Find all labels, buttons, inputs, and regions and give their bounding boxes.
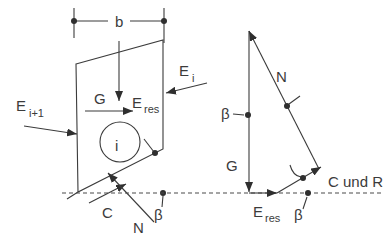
polygon-angle-bottom-label: β: [294, 206, 303, 223]
interslice-left-label-sub: i+1: [29, 107, 44, 119]
polygon-angle-top-label: β: [221, 105, 230, 122]
polygon-angle-bottom-leader: [303, 197, 307, 209]
polygon-resultant-label-main: E: [253, 203, 263, 220]
slice-circle: [100, 122, 140, 162]
resultant-label-main: E: [132, 94, 142, 111]
polygon-closing-dot: [300, 175, 306, 181]
polygon-normal-arrow: [249, 31, 319, 169]
diagram-canvas: b i G E res E i E i+1 C N β G N β E res: [0, 0, 384, 243]
base-point-dot: [152, 150, 158, 156]
interslice-left-label-main: E: [16, 97, 26, 114]
polygon-closing-hook: [290, 165, 301, 177]
polygon-angle-top-dot: [245, 112, 251, 118]
polygon-normal-tick: [289, 96, 300, 104]
weight-label: G: [94, 90, 106, 107]
base-point-tick: [144, 139, 154, 152]
slice-index-label: i: [115, 137, 118, 154]
cohesion-label: C: [102, 204, 113, 221]
interslice-left-arrow: [24, 126, 77, 134]
polygon-normal-label: N: [276, 68, 287, 85]
polygon-closing-label: C und R: [328, 173, 383, 190]
dimension-endpoint-right-dot: [161, 18, 167, 24]
polygon-angle-bottom-dot: [305, 190, 311, 196]
normal-label: N: [133, 219, 144, 236]
resultant-label-sub: res: [144, 103, 160, 115]
polygon-weight-label: G: [226, 157, 238, 174]
polygon-angle-top-leader: [233, 114, 244, 115]
dimension-label-b: b: [115, 13, 123, 30]
normal-arrow: [108, 173, 154, 222]
base-angle-label: β: [154, 206, 163, 223]
polygon-resultant-label-sub: res: [265, 212, 281, 224]
dimension-endpoint-left-dot: [71, 18, 77, 24]
slice-and-force-polygon-figure: b i G E res E i E i+1 C N β G N β E res: [0, 0, 384, 243]
polygon-closing-arrow: [277, 167, 321, 193]
interslice-right-arrow: [166, 83, 207, 93]
interslice-right-label-main: E: [179, 62, 189, 79]
interslice-right-label-sub: i: [192, 72, 194, 84]
